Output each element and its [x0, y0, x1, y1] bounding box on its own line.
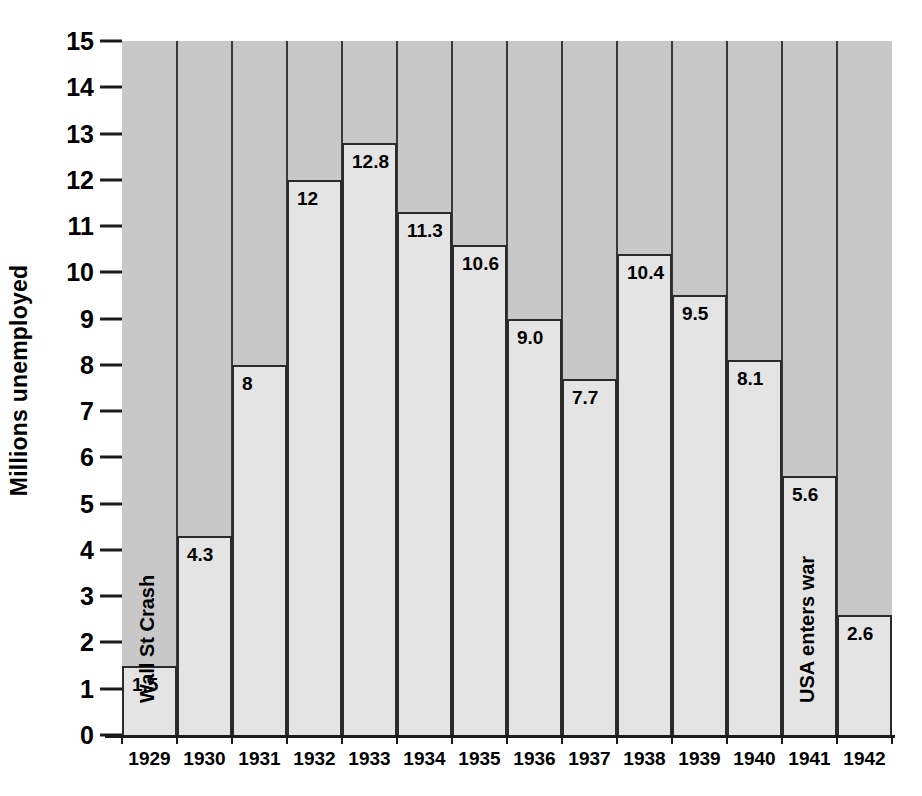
bar[interactable]: 8.1 [727, 360, 782, 735]
x-tick-mark [451, 735, 453, 744]
y-tick-label: 5 [80, 489, 94, 518]
chart-annotation: Wall St Crash [136, 575, 159, 703]
bar[interactable]: 9.0 [507, 319, 562, 735]
x-tick-label: 1929 [128, 748, 170, 770]
x-tick-label: 1942 [843, 748, 885, 770]
y-tick-label: 15 [66, 27, 94, 56]
bar-value-label: 9.5 [682, 303, 708, 325]
bar[interactable]: 2.6 [837, 615, 892, 735]
x-tick-mark [506, 735, 508, 744]
bar-value-label: 5.6 [792, 484, 818, 506]
y-tick-mark [100, 410, 122, 413]
y-tick-mark [100, 225, 122, 228]
y-tick-mark [100, 178, 122, 181]
x-tick-mark [836, 735, 838, 744]
y-tick-label: 0 [80, 721, 94, 750]
x-tick-label: 1938 [623, 748, 665, 770]
bar[interactable]: 7.7 [562, 379, 617, 735]
x-tick-mark [891, 735, 893, 744]
bar-value-label: 12 [297, 188, 318, 210]
x-tick-label: 1931 [238, 748, 280, 770]
bar[interactable]: 10.4 [617, 254, 672, 735]
x-tick-label: 1941 [788, 748, 830, 770]
y-tick-mark [100, 548, 122, 551]
y-tick-mark [100, 687, 122, 690]
bar-value-label: 12.8 [352, 151, 389, 173]
bar-value-label: 4.3 [187, 544, 213, 566]
x-tick-mark [176, 735, 178, 744]
x-tick-mark [121, 735, 123, 744]
bar[interactable]: 10.6 [452, 245, 507, 735]
bar-value-label: 8 [242, 373, 253, 395]
bar-value-label: 10.4 [627, 262, 664, 284]
bar-value-label: 2.6 [847, 623, 873, 645]
y-tick-label: 8 [80, 350, 94, 379]
x-tick-mark [616, 735, 618, 744]
bar-value-label: 10.6 [462, 253, 499, 275]
bar[interactable]: 12.8 [342, 143, 397, 735]
y-tick-mark [100, 40, 122, 43]
x-tick-mark [231, 735, 233, 744]
x-tick-mark [341, 735, 343, 744]
bar[interactable]: 9.5 [672, 295, 727, 735]
bar[interactable]: 4.3 [177, 536, 232, 735]
y-tick-label: 3 [80, 582, 94, 611]
chart-annotation: USA enters war [796, 556, 819, 703]
x-tick-label: 1939 [678, 748, 720, 770]
y-tick-label: 7 [80, 397, 94, 426]
y-tick-label: 4 [80, 535, 94, 564]
x-tick-label: 1932 [293, 748, 335, 770]
x-tick-label: 1937 [568, 748, 610, 770]
y-tick-label: 1 [80, 674, 94, 703]
x-tick-label: 1935 [458, 748, 500, 770]
y-tick-label: 9 [80, 304, 94, 333]
y-tick-mark [100, 595, 122, 598]
x-axis-line [105, 735, 895, 738]
bar-value-label: 8.1 [737, 368, 763, 390]
bar-value-label: 7.7 [572, 387, 598, 409]
bar-value-label: 9.0 [517, 327, 543, 349]
y-tick-mark [100, 363, 122, 366]
y-tick-label: 12 [66, 165, 94, 194]
x-tick-label: 1933 [348, 748, 390, 770]
y-tick-mark [100, 502, 122, 505]
y-tick-mark [100, 132, 122, 135]
x-tick-mark [286, 735, 288, 744]
plot-area: Hoover president Roosevelt president 1.5… [122, 41, 892, 735]
x-tick-mark [396, 735, 398, 744]
y-tick-label: 10 [66, 258, 94, 287]
x-tick-mark [561, 735, 563, 744]
x-tick-label: 1934 [403, 748, 445, 770]
bar-series: 1.54.381212.811.310.69.07.710.49.58.15.6… [122, 41, 892, 735]
y-tick-mark [100, 271, 122, 274]
bar-value-label: 11.3 [407, 220, 443, 242]
bar-chart: Millions unemployed 01234567891011121314… [0, 0, 922, 796]
y-tick-mark [100, 456, 122, 459]
x-tick-label: 1936 [513, 748, 555, 770]
y-axis-title: Millions unemployed [0, 0, 40, 760]
y-tick-label: 13 [66, 119, 94, 148]
bar[interactable]: 11.3 [397, 212, 452, 735]
x-tick-label: 1940 [733, 748, 775, 770]
y-tick-label: 14 [66, 73, 94, 102]
x-tick-label: 1930 [183, 748, 225, 770]
y-axis-title-text: Millions unemployed [7, 264, 34, 495]
y-tick-mark [100, 641, 122, 644]
y-tick-mark [100, 86, 122, 89]
y-tick-label: 2 [80, 628, 94, 657]
y-tick-mark [100, 317, 122, 320]
x-tick-mark [781, 735, 783, 744]
bar[interactable]: 8 [232, 365, 287, 735]
y-axis: 0123456789101112131415 [62, 0, 122, 796]
x-tick-mark [671, 735, 673, 744]
y-tick-label: 11 [68, 212, 94, 241]
x-tick-mark [726, 735, 728, 744]
y-tick-label: 6 [80, 443, 94, 472]
bar[interactable]: 12 [287, 180, 342, 735]
